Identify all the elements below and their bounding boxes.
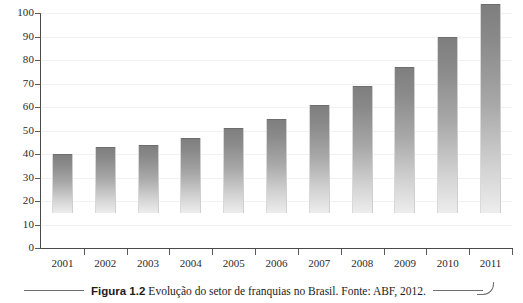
bar-top-edge (481, 4, 500, 5)
bar-top-edge (267, 119, 286, 120)
x-axis-tick-label: 2011 (469, 258, 513, 269)
x-axis-tick-label: 2004 (169, 258, 213, 269)
bar-2003 (138, 145, 159, 213)
bar-top-edge (53, 154, 72, 155)
x-axis-tick-label: 2003 (126, 258, 170, 269)
x-axis-tick-label: 2007 (297, 258, 341, 269)
caption-label: Figura 1.2 (91, 285, 145, 297)
bar-2005 (223, 128, 244, 213)
bar-2009 (394, 67, 415, 213)
x-axis-tick-label: 2009 (383, 258, 427, 269)
bar-2010 (437, 37, 458, 213)
x-axis-tick-label: 2002 (83, 258, 127, 269)
bar-top-edge (96, 147, 115, 148)
bar-top-edge (395, 67, 414, 68)
caption-rule-left-icon (24, 290, 84, 291)
caption-text-block: Figura 1.2Evolução do setor de franquias… (91, 284, 426, 298)
figure-caption: Figura 1.2Evolução do setor de franquias… (0, 278, 523, 303)
x-axis-tick-label: 2010 (426, 258, 470, 269)
x-axis-tick-label: 2008 (340, 258, 384, 269)
bar-2006 (266, 119, 287, 213)
bar-2004 (180, 138, 201, 213)
bar-top-edge (438, 37, 457, 38)
chart-bars (0, 0, 523, 268)
bar-top-edge (353, 86, 372, 87)
figure-container: 0102030405060708090100 20012002200320042… (0, 0, 523, 303)
bar-top-edge (310, 105, 329, 106)
chart-plot-area: 0102030405060708090100 20012002200320042… (0, 0, 523, 268)
bar-2002 (95, 147, 116, 213)
bar-top-edge (139, 145, 158, 146)
x-axis-tick-label: 2005 (212, 258, 256, 269)
bar-top-edge (181, 138, 200, 139)
bar-top-edge (224, 128, 243, 129)
bar-2007 (309, 105, 330, 213)
caption-description: Evolução do setor de franquias no Brasil… (148, 285, 426, 297)
bar-2008 (352, 86, 373, 213)
caption-rule-right-icon (433, 284, 499, 298)
bar-2011 (480, 4, 501, 213)
x-axis-tick-label: 2001 (40, 258, 84, 269)
bar-2001 (52, 154, 73, 213)
x-axis-tick-label: 2006 (255, 258, 299, 269)
